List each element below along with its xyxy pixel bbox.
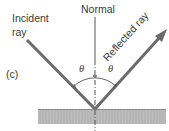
incident-ray (27, 40, 95, 109)
angle-of-reflection-label: θ (108, 64, 113, 75)
incident-ray-label: Incident (12, 13, 49, 24)
reflecting-surface (38, 109, 166, 124)
reflected-ray (95, 29, 167, 109)
panel-label: (c) (6, 69, 18, 80)
reflection-diagram: Incident ray Normal (c) θ θ Reflected ra… (0, 0, 169, 131)
incident-ray-label-line2: ray (12, 27, 27, 38)
angle-of-incidence-label: θ (79, 64, 84, 75)
normal-label: Normal (81, 4, 115, 15)
